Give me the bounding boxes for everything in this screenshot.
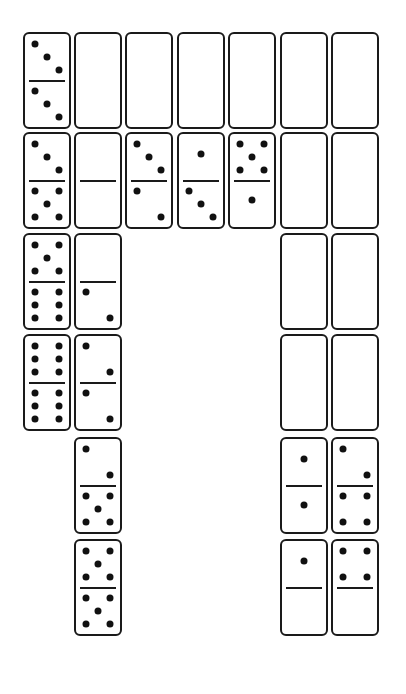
- domino-4-0[interactable]: [331, 539, 379, 636]
- domino-half-top: [179, 134, 223, 181]
- pip-dot: [56, 389, 63, 396]
- pip-dot: [56, 213, 63, 220]
- domino-0-2[interactable]: [74, 233, 122, 330]
- domino-half-bottom: [282, 486, 326, 533]
- domino-divider: [80, 281, 116, 283]
- pip-dot: [339, 574, 346, 581]
- pip-dot: [82, 620, 89, 627]
- domino-blank[interactable]: [331, 233, 379, 330]
- pip-dot: [44, 54, 51, 61]
- domino-3-5[interactable]: [23, 132, 71, 229]
- domino-half-top: [76, 541, 120, 588]
- domino-half-top: [179, 34, 223, 81]
- domino-5-5[interactable]: [74, 539, 122, 636]
- pip-dot: [107, 548, 114, 555]
- pip-dot: [95, 607, 102, 614]
- domino-half-bottom: [179, 81, 223, 128]
- pip-dot: [236, 141, 243, 148]
- domino-2-2[interactable]: [74, 334, 122, 431]
- domino-half-top: [333, 134, 377, 181]
- pip-dot: [82, 343, 89, 350]
- pip-dot: [107, 415, 114, 422]
- domino-divider: [234, 180, 270, 182]
- domino-blank[interactable]: [125, 32, 173, 129]
- pip-dot: [249, 197, 256, 204]
- domino-half-bottom: [333, 588, 377, 635]
- domino-half-top: [282, 134, 326, 181]
- domino-half-bottom: [282, 588, 326, 635]
- domino-divider: [80, 485, 116, 487]
- pip-dot: [31, 288, 38, 295]
- pip-dot: [107, 492, 114, 499]
- domino-divider: [80, 587, 116, 589]
- domino-blank[interactable]: [280, 132, 328, 229]
- domino-divider: [286, 485, 322, 487]
- domino-half-top: [76, 34, 120, 81]
- pip-dot: [44, 255, 51, 262]
- pip-dot: [146, 154, 153, 161]
- domino-divider: [337, 485, 373, 487]
- pip-dot: [56, 369, 63, 376]
- pip-dot: [56, 288, 63, 295]
- pip-dot: [261, 167, 268, 174]
- domino-blank[interactable]: [280, 334, 328, 431]
- pip-dot: [249, 154, 256, 161]
- domino-blank[interactable]: [331, 32, 379, 129]
- domino-blank[interactable]: [177, 32, 225, 129]
- domino-half-top: [333, 439, 377, 486]
- pip-dot: [31, 314, 38, 321]
- pip-dot: [133, 141, 140, 148]
- domino-half-top: [333, 34, 377, 81]
- domino-half-bottom: [282, 181, 326, 228]
- domino-divider: [337, 587, 373, 589]
- pip-dot: [198, 200, 205, 207]
- pip-dot: [185, 187, 192, 194]
- domino-half-bottom: [333, 81, 377, 128]
- pip-dot: [82, 574, 89, 581]
- domino-half-top: [282, 34, 326, 81]
- pip-dot: [82, 288, 89, 295]
- domino-divider: [29, 80, 65, 82]
- domino-half-bottom: [25, 383, 69, 430]
- domino-half-bottom: [333, 383, 377, 430]
- pip-dot: [31, 343, 38, 350]
- pip-dot: [107, 518, 114, 525]
- pip-dot: [107, 620, 114, 627]
- domino-6-6[interactable]: [23, 334, 71, 431]
- domino-half-bottom: [333, 282, 377, 329]
- pip-dot: [31, 41, 38, 48]
- domino-3-2[interactable]: [125, 132, 173, 229]
- pip-dot: [107, 314, 114, 321]
- domino-1-1[interactable]: [280, 437, 328, 534]
- domino-2-4[interactable]: [331, 437, 379, 534]
- pip-dot: [44, 154, 51, 161]
- pip-dot: [56, 415, 63, 422]
- domino-5-6[interactable]: [23, 233, 71, 330]
- domino-half-top: [76, 134, 120, 181]
- domino-blank[interactable]: [280, 32, 328, 129]
- domino-3-3[interactable]: [23, 32, 71, 129]
- pip-dot: [301, 502, 308, 509]
- domino-blank[interactable]: [331, 132, 379, 229]
- domino-half-bottom: [25, 181, 69, 228]
- pip-dot: [56, 402, 63, 409]
- domino-blank[interactable]: [280, 233, 328, 330]
- domino-half-top: [127, 134, 171, 181]
- pip-dot: [107, 574, 114, 581]
- domino-blank[interactable]: [228, 32, 276, 129]
- domino-half-top: [282, 541, 326, 588]
- pip-dot: [31, 389, 38, 396]
- domino-0-0[interactable]: [74, 132, 122, 229]
- domino-1-3[interactable]: [177, 132, 225, 229]
- pip-dot: [56, 242, 63, 249]
- domino-divider: [29, 281, 65, 283]
- domino-5-1[interactable]: [228, 132, 276, 229]
- pip-dot: [31, 301, 38, 308]
- domino-blank[interactable]: [331, 334, 379, 431]
- pip-dot: [56, 67, 63, 74]
- pip-dot: [31, 415, 38, 422]
- domino-2-5[interactable]: [74, 437, 122, 534]
- domino-blank[interactable]: [74, 32, 122, 129]
- pip-dot: [56, 343, 63, 350]
- domino-1-0[interactable]: [280, 539, 328, 636]
